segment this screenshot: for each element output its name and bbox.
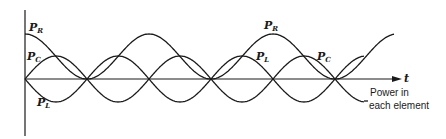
curve-label-subscript: R [272, 24, 278, 33]
curve-label-subscript: L [264, 55, 269, 64]
curve-label-pl-right: PL [256, 51, 269, 63]
curve-label-pc-left: PC [27, 51, 41, 63]
curve-label-pl-left: PL [37, 97, 50, 109]
time-axis-arrowhead [392, 76, 402, 82]
curve-label-pr-right: PR [264, 20, 278, 32]
curve-label-subscript: C [325, 55, 331, 64]
time-axis-label: t [404, 73, 409, 84]
curve-label-pr-left: PR [29, 22, 43, 34]
curve-label-subscript: R [37, 26, 43, 35]
curve-label-subscript: L [45, 101, 50, 110]
waveform-plot [0, 0, 446, 139]
power-waveform-diagram: PRPCPLPRPLPC t Power in each element [0, 0, 446, 139]
power-note-line2: each element [369, 99, 429, 112]
power-note-line1: Power in [370, 86, 409, 99]
curve-label-subscript: C [35, 55, 41, 64]
curve-label-pc-right: PC [317, 51, 331, 63]
